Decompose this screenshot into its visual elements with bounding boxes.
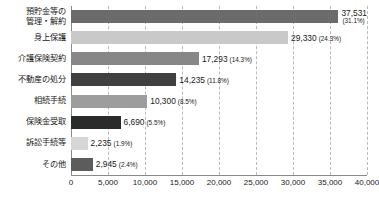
x-tick-label: 15,000 xyxy=(170,178,194,187)
bar-row: 6,690(5.5%) xyxy=(71,112,367,133)
x-axis-line xyxy=(71,175,367,176)
bar-value-number: 2,235 xyxy=(91,138,112,148)
bar-value-percent: (31.1%) xyxy=(341,18,367,25)
bar-row: 10,300(8.5%) xyxy=(71,91,367,112)
category-label: 相続手続 xyxy=(0,91,69,112)
bar-value-label: 10,300(8.5%) xyxy=(147,96,196,106)
bar-value-percent: (8.5%) xyxy=(176,98,197,105)
bar-value-label: 17,293(14.3%) xyxy=(199,54,252,64)
bar-value-percent: (14.3%) xyxy=(228,56,252,63)
bar xyxy=(71,31,288,44)
bar-row: 2,235(1.9%) xyxy=(71,133,367,154)
bar-row: 29,330(24.3%) xyxy=(71,27,367,48)
bar xyxy=(71,158,93,171)
bar-value-number: 6,690 xyxy=(124,117,145,127)
bar-row: 2,945(2.4%) xyxy=(71,154,367,175)
gridline xyxy=(367,6,368,175)
bar-value-percent: (24.3%) xyxy=(317,35,341,42)
bar xyxy=(71,116,121,129)
horizontal-bar-chart: 預貯金等の 管理・解約身上保護介護保険契約不動産の処分相続手続保険金受取訴訟手続… xyxy=(0,0,379,209)
bar-value-label: 29,330(24.3%) xyxy=(288,33,341,43)
x-tick-label: 10,000 xyxy=(133,178,157,187)
bar xyxy=(71,52,199,65)
x-tick-label: 30,000 xyxy=(281,178,305,187)
bar-row: 14,235(11.8%) xyxy=(71,69,367,90)
category-label: 介護保険契約 xyxy=(0,48,69,69)
bar-series: 37,531(31.1%)29,330(24.3%)17,293(14.3%)1… xyxy=(71,6,367,175)
bar-value-number: 14,235 xyxy=(179,75,205,85)
category-axis: 預貯金等の 管理・解約身上保護介護保険契約不動産の処分相続手続保険金受取訴訟手続… xyxy=(0,6,69,175)
bar-value-percent: (2.4%) xyxy=(117,161,138,168)
bar-value-label: 14,235(11.8%) xyxy=(176,75,229,85)
category-label: 不動産の処分 xyxy=(0,69,69,90)
bar-value-percent: (1.9%) xyxy=(112,140,133,147)
x-tick-label: 5,000 xyxy=(98,178,118,187)
bar-row: 17,293(14.3%) xyxy=(71,48,367,69)
category-label: 預貯金等の 管理・解約 xyxy=(0,6,69,27)
bar-value-percent: (11.8%) xyxy=(205,77,229,84)
bar-value-number: 2,945 xyxy=(96,159,117,169)
bar-value-number: 17,293 xyxy=(202,54,228,64)
category-label: その他 xyxy=(0,154,69,175)
bar-value-percent: (5.5%) xyxy=(144,119,165,126)
bar-value-label: 37,531(31.1%) xyxy=(338,9,367,25)
plot-area: 37,531(31.1%)29,330(24.3%)17,293(14.3%)1… xyxy=(71,6,367,175)
category-label: 訴訟手続等 xyxy=(0,133,69,154)
bar-value-number: 29,330 xyxy=(291,33,317,43)
bar xyxy=(71,10,338,23)
bar xyxy=(71,137,88,150)
x-tick-label: 25,000 xyxy=(244,178,268,187)
x-tick-label: 20,000 xyxy=(207,178,231,187)
bar-row: 37,531(31.1%) xyxy=(71,6,367,27)
x-tick-label: 35,000 xyxy=(318,178,342,187)
category-label: 身上保護 xyxy=(0,27,69,48)
bar-value-number: 10,300 xyxy=(150,96,176,106)
category-label: 保険金受取 xyxy=(0,112,69,133)
x-tick-label: 40,000 xyxy=(355,178,379,187)
bar-value-label: 2,235(1.9%) xyxy=(88,138,133,148)
bar-value-label: 6,690(5.5%) xyxy=(121,117,166,127)
bar xyxy=(71,73,176,86)
x-tick-label: 0 xyxy=(69,178,73,187)
x-axis-tick-labels: 05,00010,00015,00020,00025,00030,00035,0… xyxy=(71,178,367,194)
bar-value-label: 2,945(2.4%) xyxy=(93,159,138,169)
bar xyxy=(71,95,147,108)
